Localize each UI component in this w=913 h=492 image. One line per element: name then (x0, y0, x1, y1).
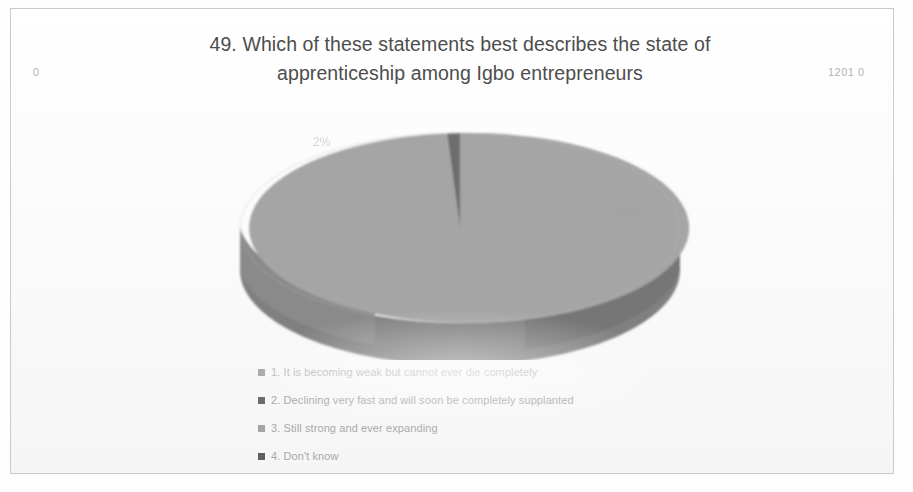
chart-title-line-2: apprenticeship among Igbo entrepreneurs (100, 59, 820, 88)
legend-swatch-icon-3 (258, 425, 265, 432)
pie-slice-label-3: 96% (615, 205, 639, 219)
scan-corner-mark-left: 0 (33, 66, 40, 78)
pie-slice-label-1: 2% (313, 135, 330, 149)
pie-chart: 2% 96% (225, 95, 695, 360)
legend-label-4: 4. Don't know (271, 450, 339, 462)
scan-corner-mark-right: 1201 0 (828, 66, 865, 78)
legend-item-4[interactable]: 4. Don't know (258, 442, 678, 470)
legend-label-1: 1. It is becoming weak but cannot ever d… (271, 366, 537, 378)
legend-swatch-icon-1 (258, 369, 265, 376)
chart-legend: 1. It is becoming weak but cannot ever d… (258, 358, 678, 470)
chart-title-line-1: 49. Which of these statements best descr… (100, 30, 820, 59)
legend-swatch-icon-2 (258, 397, 265, 404)
scanned-page: 0 1201 0 49. Which of these statements b… (0, 0, 913, 492)
legend-swatch-icon-4 (258, 453, 265, 460)
legend-item-3[interactable]: 3. Still strong and ever expanding (258, 414, 678, 442)
chart-title: 49. Which of these statements best descr… (100, 30, 820, 88)
legend-label-2: 2. Declining very fast and will soon be … (271, 394, 574, 406)
pie-chart-graphic (225, 95, 695, 360)
legend-label-3: 3. Still strong and ever expanding (271, 422, 438, 434)
legend-item-1[interactable]: 1. It is becoming weak but cannot ever d… (258, 358, 678, 386)
legend-item-2[interactable]: 2. Declining very fast and will soon be … (258, 386, 678, 414)
